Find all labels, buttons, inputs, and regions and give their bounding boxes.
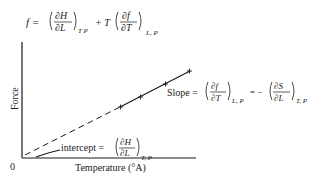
slope-t2-num: ∂S xyxy=(274,81,283,91)
eq-lhs: f = xyxy=(26,16,39,28)
slope-t1-sub: L, P xyxy=(231,97,244,105)
intercept-den: ∂L xyxy=(120,148,129,158)
intercept-pointer xyxy=(36,150,60,157)
intercept-num: ∂H xyxy=(120,137,131,147)
slope-t1-den: ∂T xyxy=(211,93,221,103)
intercept-label: intercept = xyxy=(61,142,104,153)
eq-t2-sub: L, P xyxy=(145,29,158,37)
top-equation: f = ∂H ∂L T P + T ∂f ∂T L, P xyxy=(26,10,158,37)
x-axis-label: Temperature (°A) xyxy=(75,162,146,174)
eq-t1-num: ∂H xyxy=(55,10,68,21)
slope-t2-sub: T, P xyxy=(296,97,308,105)
eq-t1-sub: T P xyxy=(78,27,89,35)
intercept-sub: T, P xyxy=(141,154,153,162)
slope-t1-num: ∂f xyxy=(211,81,219,91)
slope-t2-den: ∂L xyxy=(274,93,283,103)
force-temperature-diagram: f = ∂H ∂L T P + T ∂f ∂T L, P 0 Temperatu… xyxy=(0,0,326,180)
eq-t2-den: ∂T xyxy=(121,22,133,33)
slope-label: Slope = xyxy=(167,87,198,98)
eq-plus: + T xyxy=(95,17,111,28)
eq-t1-den: ∂L xyxy=(55,22,66,33)
eq-t2-num: ∂f xyxy=(122,10,131,21)
slope-equals: = − xyxy=(250,87,262,97)
origin-label: 0 xyxy=(10,161,15,172)
y-axis-label: Force xyxy=(9,87,20,110)
slope-annotation: Slope = ∂f ∂T L, P = − ∂S ∂L T, P xyxy=(167,81,308,105)
